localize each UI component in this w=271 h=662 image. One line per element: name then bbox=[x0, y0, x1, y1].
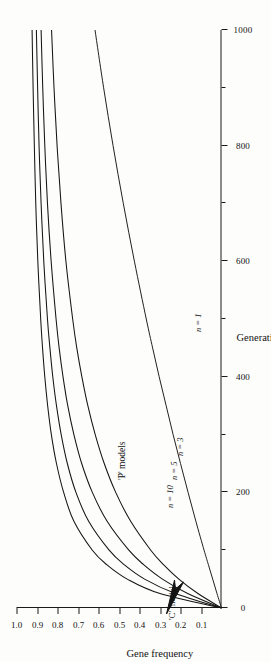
x-tick-200 bbox=[221, 491, 227, 492]
annotation-c-model: 'C' model bbox=[166, 586, 176, 620]
y-tick-0.2 bbox=[180, 608, 181, 614]
annotation-p-models: 'P' models bbox=[116, 441, 126, 480]
y-tick-0.6 bbox=[98, 608, 99, 614]
x-tick-label-1000: 1000 bbox=[233, 26, 252, 35]
annotation-n-10: n = 10 bbox=[164, 485, 174, 508]
annotation-n-3: n = 3 bbox=[174, 438, 184, 457]
y-tick-label-1.0: 1.0 bbox=[3, 621, 29, 630]
y-tick-1.0 bbox=[16, 608, 17, 614]
x-tick-600 bbox=[221, 260, 227, 261]
x-tick-700 bbox=[221, 202, 225, 203]
x-tick-400 bbox=[221, 376, 227, 377]
x-tick-300 bbox=[221, 434, 225, 435]
x-tick-label-800: 800 bbox=[235, 141, 249, 150]
annotation-n-1: n = 1 bbox=[192, 314, 202, 333]
figure-page: 02004006008001000 0.10.20.30.40.50.60.70… bbox=[0, 0, 271, 662]
x-axis-title: Generations bbox=[236, 332, 271, 343]
x-tick-label-600: 600 bbox=[235, 257, 249, 266]
y-tick-0.1 bbox=[201, 608, 202, 614]
x-tick-label-200: 200 bbox=[235, 488, 249, 497]
y-tick-0.8 bbox=[57, 608, 58, 614]
x-tick-1000 bbox=[221, 29, 227, 30]
plot-area: 02004006008001000 0.10.20.30.40.50.60.70… bbox=[16, 30, 221, 608]
y-tick-0.3 bbox=[160, 608, 161, 614]
x-tick-label-0: 0 bbox=[240, 604, 245, 613]
x-tick-100 bbox=[221, 549, 225, 550]
c-model-arrow bbox=[16, 30, 221, 608]
x-tick-800 bbox=[221, 145, 227, 146]
y-tick-0.4 bbox=[139, 608, 140, 614]
x-tick-900 bbox=[221, 87, 225, 88]
x-tick-label-400: 400 bbox=[235, 372, 249, 381]
y-tick-0.5 bbox=[119, 608, 120, 614]
y-tick-0.9 bbox=[37, 608, 38, 614]
rotated-figure-frame: 02004006008001000 0.10.20.30.40.50.60.70… bbox=[0, 0, 271, 662]
x-tick-500 bbox=[221, 318, 225, 319]
y-axis-title: Gene frequency bbox=[126, 648, 193, 659]
y-tick-0.7 bbox=[78, 608, 79, 614]
annotation-n-5: n = 5 bbox=[168, 462, 178, 481]
